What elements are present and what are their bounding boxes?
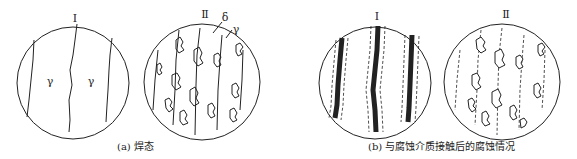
caption-b: (b) 与腐蚀介质接触后的腐蚀情况: [368, 138, 515, 153]
phase-label-gamma: γ: [233, 23, 240, 36]
microstructure-diagram: Ⅰ γ γ Ⅱ δ γ: [0, 0, 577, 159]
phase-label-gamma: γ: [47, 75, 54, 88]
view-label: Ⅱ: [201, 8, 208, 21]
panel-a-view-1: [17, 24, 129, 139]
phase-label-delta: δ: [222, 11, 229, 24]
panel-a-view-2: [144, 22, 260, 140]
panel-b-view-2: [444, 24, 560, 140]
view-label: Ⅱ: [502, 8, 509, 21]
caption-a: (a) 焊态: [117, 138, 154, 153]
view-label: Ⅰ: [73, 12, 77, 25]
panel-b-view-1: [319, 26, 431, 139]
view-label: Ⅰ: [375, 10, 379, 23]
phase-label-gamma: γ: [88, 75, 95, 88]
